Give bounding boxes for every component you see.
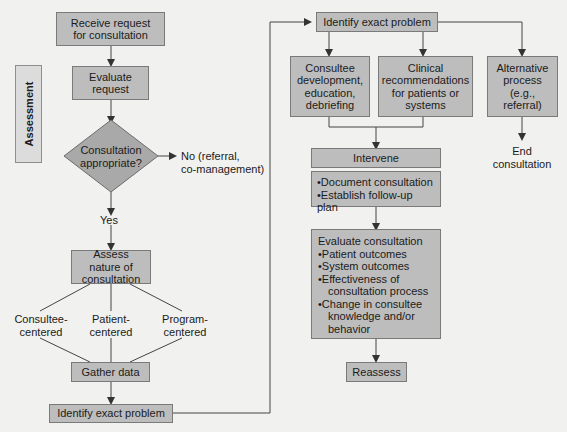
evaluate-item-effectiveness-cont: consultation process bbox=[318, 285, 428, 298]
reassess-box: Reassess bbox=[346, 362, 407, 382]
evaluate-item-change-cont1: knowledge and/or bbox=[318, 310, 428, 323]
program-centered-label: Program- centered bbox=[150, 313, 220, 338]
evaluate-item-change: •Change in consultee bbox=[318, 298, 428, 311]
intervene-box: Intervene bbox=[311, 148, 441, 168]
assessment-phase-label: Assessment bbox=[15, 65, 42, 163]
consultee-centered-label: Consultee- centered bbox=[6, 313, 76, 338]
no-branch-label: No (referral, co-management) bbox=[181, 150, 264, 175]
evaluate-consultation-box: Evaluate consultation •Patient outcomes … bbox=[311, 229, 441, 339]
patient-centered-label: Patient- centered bbox=[76, 313, 146, 338]
end-consultation-label: End consultation bbox=[492, 145, 552, 170]
evaluate-item-patient: •Patient outcomes bbox=[318, 248, 428, 261]
intervene-item-document: •Document consultation bbox=[317, 176, 435, 189]
evaluate-item-system: •System outcomes bbox=[318, 260, 428, 273]
intervene-actions-box: •Document consultation •Establish follow… bbox=[311, 171, 441, 207]
evaluate-request-box: Evaluate request bbox=[72, 66, 149, 100]
receive-request-box: Receive request for consultation bbox=[56, 12, 165, 46]
yes-branch-label: Yes bbox=[100, 214, 118, 227]
identify-problem-right-box: Identify exact problem bbox=[316, 12, 438, 32]
intervene-item-followup: •Establish follow-up plan bbox=[317, 189, 435, 214]
consultee-development-box: Consultee development, education, debrie… bbox=[290, 56, 370, 117]
decision-label: Consultation appropriate? bbox=[76, 144, 146, 169]
gather-data-box: Gather data bbox=[71, 362, 150, 382]
evaluate-title: Evaluate consultation bbox=[318, 235, 428, 248]
evaluate-item-change-cont2: behavior bbox=[318, 323, 428, 336]
identify-problem-left-box: Identify exact problem bbox=[49, 404, 173, 423]
clinical-recommendations-box: Clinical recommendations for patients or… bbox=[378, 56, 473, 117]
alternative-process-box: Alternative process (e.g., referral) bbox=[487, 56, 558, 117]
evaluate-item-effectiveness: •Effectiveness of bbox=[318, 273, 428, 286]
assess-nature-box: Assess nature of consultation bbox=[71, 250, 151, 284]
